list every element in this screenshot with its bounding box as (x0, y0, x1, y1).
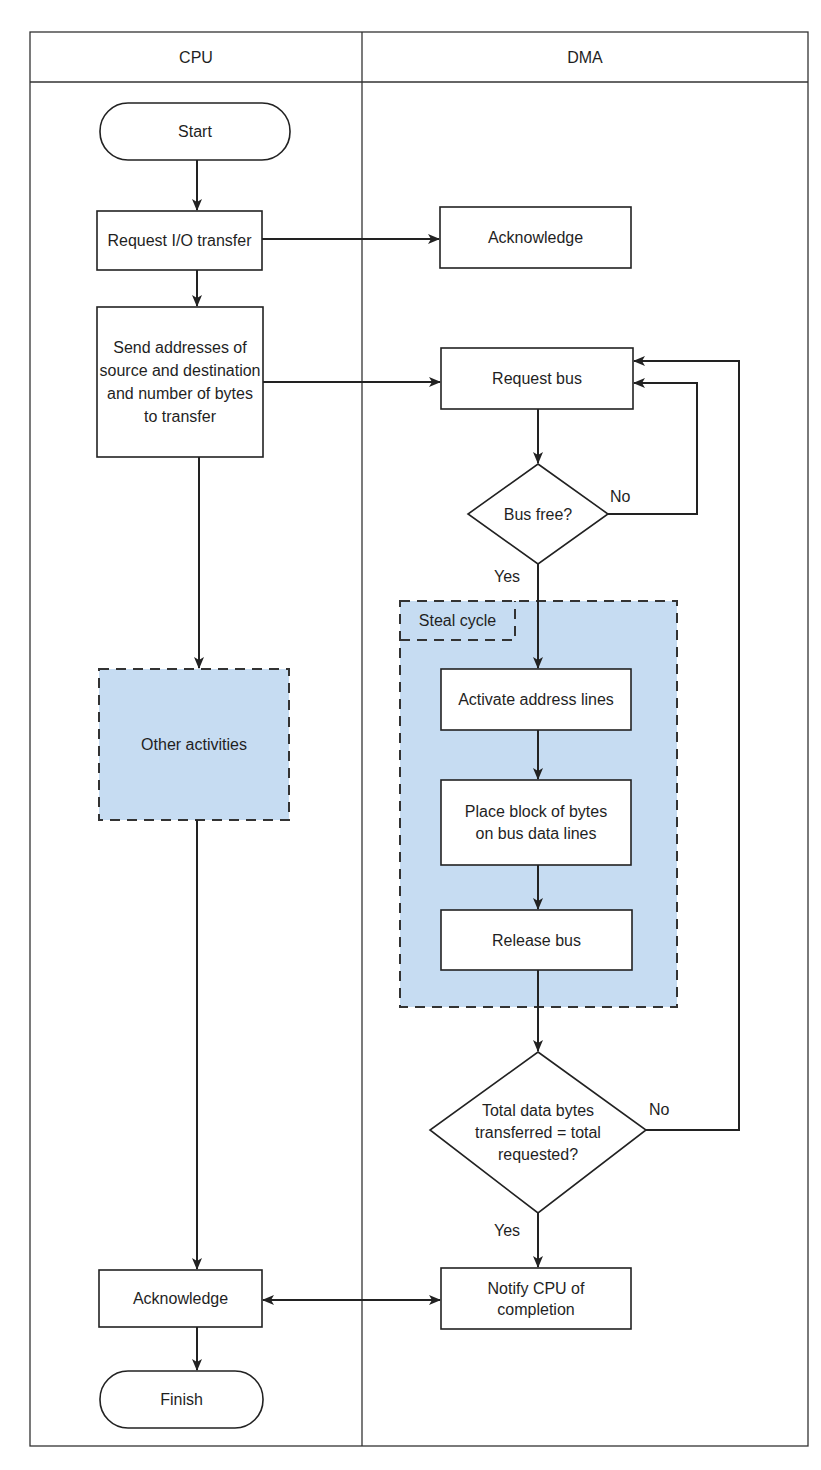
total-yes-label: Yes (494, 1222, 520, 1240)
steal-cycle-label: Steal cycle (400, 601, 515, 640)
total-no-label: No (649, 1101, 669, 1119)
total-check-label: Total data bytes transferred = total req… (430, 1052, 646, 1213)
bus-free-label: Bus free? (468, 464, 608, 564)
dma-acknowledge-label: Acknowledge (440, 207, 631, 268)
start-label: Start (100, 103, 290, 160)
bus-free-yes-label: Yes (494, 568, 520, 586)
lane-title-dma: DMA (362, 32, 808, 82)
activate-address-label: Activate address lines (441, 669, 631, 730)
lane-title-cpu: CPU (30, 32, 362, 82)
notify-cpu-label: Notify CPU of completion (441, 1268, 631, 1329)
bus-free-no-label: No (610, 488, 630, 506)
release-bus-label: Release bus (441, 910, 632, 970)
other-activities-label: Other activities (99, 669, 289, 820)
request-io-label: Request I/O transfer (97, 211, 262, 270)
finish-label: Finish (100, 1371, 263, 1428)
cpu-acknowledge-label: Acknowledge (99, 1270, 262, 1327)
request-bus-label: Request bus (441, 348, 633, 409)
send-addresses-label: Send addresses of source and destination… (97, 307, 263, 457)
place-block-label: Place block of bytes on bus data lines (441, 780, 631, 865)
